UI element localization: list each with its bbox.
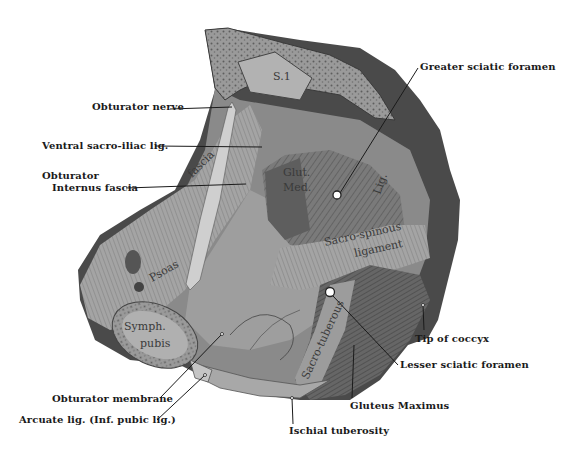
label-pubis: pubis — [140, 337, 171, 350]
label-med: Med. — [283, 181, 311, 194]
label-greater-sciatic-foramen: Greater sciatic foramen — [420, 61, 556, 73]
label-gluteus-maximus: Gluteus Maximus — [350, 400, 449, 412]
label-s1: S.1 — [273, 70, 291, 83]
label-obturator: Obturator — [42, 170, 99, 182]
anatomy-figure: S.1 Psoas fascia Glut. Med. Lig. Sacro-s… — [0, 0, 570, 461]
label-lesser-sciatic-foramen: Lesser sciatic foramen — [400, 359, 529, 371]
label-arcuate-lig: Arcuate lig. (Inf. pubic lig.) — [19, 414, 176, 426]
label-obturator-nerve: Obturator nerve — [92, 101, 184, 113]
label-ischial-tuberosity: Ischial tuberosity — [289, 425, 389, 437]
label-obturator-membrane: Obturator membrane — [52, 393, 173, 405]
label-symph: Symph. — [124, 320, 166, 333]
label-glut: Glut. — [283, 166, 310, 179]
label-tip-of-coccyx: Tip of coccyx — [415, 333, 489, 345]
label-ventral-sacro-iliac-lig: Ventral sacro-iliac lig. — [42, 140, 168, 152]
label-internus-fascia: Internus fascia — [52, 182, 138, 194]
